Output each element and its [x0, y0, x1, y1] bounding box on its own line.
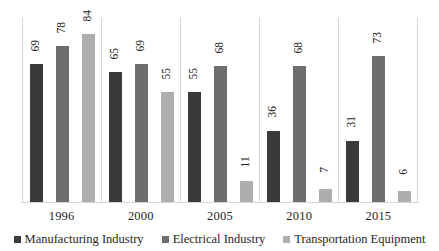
- bar-value-label: 11: [240, 157, 252, 168]
- bar-slot: 6: [391, 18, 417, 203]
- bar-slot: 84: [75, 18, 101, 203]
- legend-item-2[interactable]: Electrical Industry: [162, 232, 266, 246]
- bar-slot: 69: [128, 18, 154, 203]
- legend-item-1[interactable]: Manufacturing Industry: [14, 232, 144, 246]
- bar-slot: 36: [260, 18, 286, 203]
- legend-swatch-light: [283, 236, 290, 243]
- category-label-2010: 2010: [260, 205, 339, 227]
- category-label-1996: 1996: [22, 205, 101, 227]
- bar-groups: 6978846569555568113668731736: [22, 18, 418, 203]
- bar-2000-series3[interactable]: [161, 92, 174, 203]
- bar-slot: 31: [339, 18, 365, 203]
- bar-2005-series1[interactable]: [188, 92, 201, 203]
- bar-slot: 68: [207, 18, 233, 203]
- bar-slot: 7: [312, 18, 338, 203]
- bar-1996-series2[interactable]: [56, 46, 69, 203]
- legend-swatch-medium: [162, 236, 169, 243]
- bar-2005-series2[interactable]: [214, 66, 227, 203]
- bar-value-label: 65: [109, 48, 121, 60]
- legend-item-3[interactable]: Transportation Equipment: [283, 232, 425, 246]
- bar-value-label: 68: [214, 42, 226, 54]
- grouped-bar-chart: 6978846569555568113668731736 19962000200…: [0, 0, 439, 251]
- category-label-2015: 2015: [339, 205, 418, 227]
- bar-slot: 69: [23, 18, 49, 203]
- bar-value-label: 55: [188, 68, 200, 80]
- bar-group-2000: 656955: [101, 18, 180, 203]
- bar-group-2010: 36687: [259, 18, 338, 203]
- bar-value-label: 6: [398, 169, 410, 175]
- chart-legend: Manufacturing IndustryElectrical Industr…: [0, 230, 439, 248]
- legend-label: Electrical Industry: [173, 232, 266, 246]
- bar-value-label: 68: [293, 42, 305, 54]
- bar-slot: 11: [233, 18, 259, 203]
- bar-slot: 55: [181, 18, 207, 203]
- bar-slot: 73: [365, 18, 391, 203]
- bar-2015-series1[interactable]: [346, 141, 359, 203]
- bar-2015-series2[interactable]: [372, 56, 385, 203]
- bar-value-label: 36: [267, 106, 279, 118]
- bar-2000-series1[interactable]: [109, 72, 122, 203]
- bar-slot: 78: [49, 18, 75, 203]
- bar-slot: 65: [102, 18, 128, 203]
- bar-value-label: 7: [319, 167, 331, 173]
- bar-value-label: 73: [372, 32, 384, 44]
- bar-2010-series2[interactable]: [293, 66, 306, 203]
- x-axis-baseline: [22, 202, 418, 203]
- bar-2010-series1[interactable]: [267, 131, 280, 203]
- bar-2010-series3[interactable]: [319, 189, 332, 203]
- category-label-2000: 2000: [101, 205, 180, 227]
- legend-swatch-dark: [14, 236, 21, 243]
- legend-label: Manufacturing Industry: [25, 232, 144, 246]
- bar-value-label: 84: [82, 9, 94, 21]
- bar-value-label: 55: [161, 68, 173, 80]
- bar-value-label: 78: [56, 22, 68, 34]
- bar-value-label: 31: [346, 116, 358, 128]
- bar-value-label: 69: [135, 40, 147, 52]
- bar-1996-series3[interactable]: [82, 34, 95, 203]
- bar-2005-series3[interactable]: [240, 181, 253, 203]
- category-axis: 19962000200520102015: [22, 205, 418, 227]
- bar-group-2005: 556811: [180, 18, 259, 203]
- bar-1996-series1[interactable]: [30, 64, 43, 203]
- bar-group-1996: 697884: [22, 18, 101, 203]
- category-label-2005: 2005: [180, 205, 259, 227]
- bar-2000-series2[interactable]: [135, 64, 148, 203]
- bar-group-2015: 31736: [338, 18, 418, 203]
- bar-slot: 55: [154, 18, 180, 203]
- bar-value-label: 69: [30, 40, 42, 52]
- legend-label: Transportation Equipment: [294, 232, 425, 246]
- bar-slot: 68: [286, 18, 312, 203]
- plot-area: 6978846569555568113668731736: [22, 18, 418, 203]
